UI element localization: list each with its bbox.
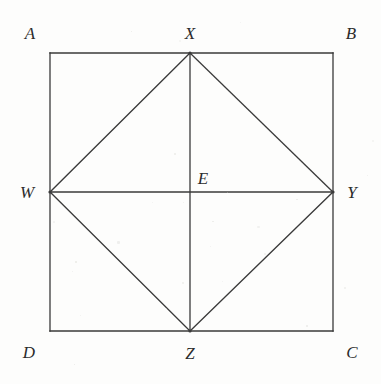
vertex-dot-W [48, 190, 51, 193]
vertex-label-D: D [23, 344, 35, 361]
geometry-figure: ABXWYEDZC [0, 0, 381, 384]
vertex-label-A: A [25, 25, 35, 42]
vertex-label-X: X [185, 25, 195, 42]
vertex-label-W: W [20, 184, 34, 201]
inner-square-side-YZ [190, 192, 333, 331]
vertex-label-Y: Y [347, 184, 356, 201]
vertex-label-C: C [346, 344, 357, 361]
vertex-dot-Z [188, 329, 191, 332]
vertex-label-Z: Z [185, 345, 194, 362]
inner-square-side-XY [190, 53, 333, 192]
vertex-label-E: E [198, 170, 208, 187]
inner-square-side-WX [50, 53, 190, 192]
figure-canvas [0, 0, 381, 384]
inner-square-side-ZW [50, 192, 190, 331]
vertex-dot-X [188, 51, 191, 54]
vertex-label-B: B [346, 25, 356, 42]
vertex-dot-Y [331, 190, 334, 193]
